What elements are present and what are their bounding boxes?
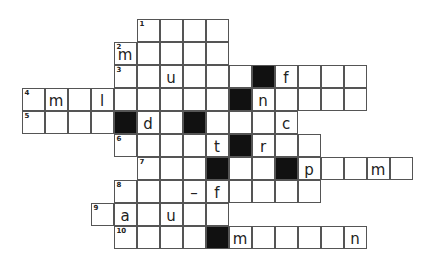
crossword-cell[interactable] <box>137 88 160 111</box>
crossword-cell[interactable]: r <box>252 134 275 157</box>
crossword-cell[interactable] <box>160 180 183 203</box>
crossword-cell[interactable] <box>321 226 344 249</box>
crossword-cell[interactable] <box>183 88 206 111</box>
crossword-cell[interactable]: 6 <box>114 134 137 157</box>
clue-number: 1 <box>140 20 145 28</box>
crossword-cell[interactable] <box>206 111 229 134</box>
crossword-cell[interactable] <box>183 65 206 88</box>
crossword-cell[interactable] <box>229 111 252 134</box>
crossword-cell[interactable] <box>298 65 321 88</box>
crossword-cell[interactable] <box>206 19 229 42</box>
crossword-cell[interactable]: n <box>344 226 367 249</box>
crossword-cell[interactable] <box>137 65 160 88</box>
crossword-cell[interactable]: 8 <box>114 180 137 203</box>
crossword-cell[interactable] <box>252 180 275 203</box>
crossword-cell[interactable] <box>137 180 160 203</box>
crossword-cell[interactable]: u <box>160 203 183 226</box>
crossword-cell[interactable] <box>252 111 275 134</box>
cell-letter: d <box>138 115 159 133</box>
crossword-cell[interactable]: 5 <box>22 111 45 134</box>
crossword-cell[interactable] <box>252 226 275 249</box>
crossword-cell[interactable] <box>160 42 183 65</box>
crossword-cell[interactable] <box>160 19 183 42</box>
crossword-cell[interactable] <box>137 134 160 157</box>
crossword-cell[interactable] <box>252 157 275 180</box>
crossword-cell[interactable] <box>229 157 252 180</box>
clue-number: 4 <box>25 89 30 97</box>
crossword-cell[interactable]: m <box>367 157 390 180</box>
crossword-cell[interactable]: l <box>91 88 114 111</box>
crossword-cell[interactable] <box>45 111 68 134</box>
crossword-cell[interactable] <box>298 88 321 111</box>
crossword-cell[interactable] <box>344 157 367 180</box>
crossword-cell[interactable]: m <box>45 88 68 111</box>
crossword-cell[interactable] <box>91 111 114 134</box>
crossword-cell[interactable]: a <box>114 203 137 226</box>
crossword-cell[interactable]: p <box>298 157 321 180</box>
crossword-cell[interactable]: 9 <box>91 203 114 226</box>
clue-number: 7 <box>140 158 145 166</box>
cell-letter: t <box>207 138 228 156</box>
crossword-cell[interactable] <box>390 157 413 180</box>
crossword-cell[interactable] <box>298 226 321 249</box>
crossword-cell[interactable]: 1 <box>137 19 160 42</box>
cell-letter: m <box>46 92 67 110</box>
black-square <box>206 226 229 249</box>
crossword-cell[interactable] <box>275 180 298 203</box>
crossword-cell[interactable] <box>275 88 298 111</box>
crossword-cell[interactable]: f <box>206 180 229 203</box>
crossword-cell[interactable] <box>160 88 183 111</box>
crossword-cell[interactable]: n <box>252 88 275 111</box>
crossword-cell[interactable]: c <box>275 111 298 134</box>
crossword-cell[interactable] <box>206 203 229 226</box>
crossword-cell[interactable]: 10 <box>114 226 137 249</box>
crossword-cell[interactable] <box>298 134 321 157</box>
crossword-cell[interactable]: 7 <box>137 157 160 180</box>
black-square <box>275 157 298 180</box>
crossword-cell[interactable] <box>275 226 298 249</box>
cell-letter: f <box>276 69 297 87</box>
crossword-cell[interactable]: 3 <box>114 65 137 88</box>
crossword-cell[interactable]: f <box>275 65 298 88</box>
crossword-cell[interactable] <box>183 203 206 226</box>
crossword-cell[interactable] <box>183 134 206 157</box>
crossword-cell[interactable] <box>344 65 367 88</box>
crossword-cell[interactable] <box>183 157 206 180</box>
crossword-cell[interactable]: m <box>229 226 252 249</box>
black-square <box>252 65 275 88</box>
cell-letter: m <box>368 161 389 179</box>
crossword-cell[interactable] <box>160 111 183 134</box>
crossword-cell[interactable] <box>298 180 321 203</box>
crossword-cell[interactable]: u <box>160 65 183 88</box>
crossword-cell[interactable] <box>321 65 344 88</box>
crossword-cell[interactable] <box>160 134 183 157</box>
crossword-cell[interactable] <box>229 65 252 88</box>
crossword-cell[interactable] <box>68 111 91 134</box>
crossword-cell[interactable] <box>206 42 229 65</box>
crossword-cell[interactable] <box>160 157 183 180</box>
crossword-cell[interactable] <box>137 42 160 65</box>
crossword-cell[interactable] <box>344 88 367 111</box>
crossword-cell[interactable] <box>114 88 137 111</box>
crossword-cell[interactable]: 2m <box>114 42 137 65</box>
crossword-cell[interactable] <box>321 157 344 180</box>
cell-letter: a <box>115 207 136 225</box>
crossword-cell[interactable]: – <box>183 180 206 203</box>
crossword-cell[interactable] <box>183 19 206 42</box>
crossword-cell[interactable] <box>160 226 183 249</box>
crossword-grid: 12m3uf4mln5dc6tr7pm8–f9au10mn <box>0 0 430 267</box>
crossword-cell[interactable] <box>206 65 229 88</box>
crossword-cell[interactable]: t <box>206 134 229 157</box>
crossword-cell[interactable] <box>321 88 344 111</box>
crossword-cell[interactable] <box>183 42 206 65</box>
crossword-cell[interactable]: d <box>137 111 160 134</box>
crossword-cell[interactable] <box>183 226 206 249</box>
crossword-cell[interactable] <box>68 88 91 111</box>
crossword-cell[interactable]: 4 <box>22 88 45 111</box>
crossword-cell[interactable] <box>137 203 160 226</box>
black-square <box>183 111 206 134</box>
crossword-cell[interactable] <box>275 134 298 157</box>
crossword-cell[interactable] <box>229 180 252 203</box>
crossword-cell[interactable] <box>206 88 229 111</box>
crossword-cell[interactable] <box>137 226 160 249</box>
